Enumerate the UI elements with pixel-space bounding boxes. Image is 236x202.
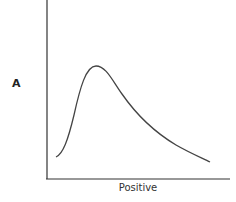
y-axis-label: A: [12, 77, 21, 90]
chart-canvas: [0, 0, 236, 202]
x-axis-label: Positive: [0, 182, 236, 193]
data-curve: [56, 66, 210, 162]
